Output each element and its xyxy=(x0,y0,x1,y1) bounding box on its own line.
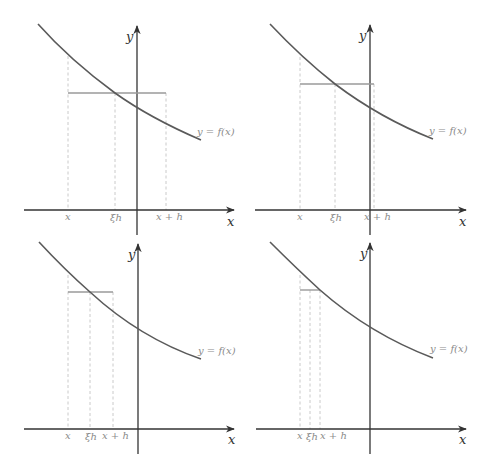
x-axis-label: x xyxy=(227,214,235,229)
tick-xi: ξh xyxy=(330,212,342,223)
tick-x-plus-h: x + h xyxy=(364,211,391,222)
panel-2: y x y = f(x) x ξh x + h xyxy=(255,24,467,235)
x-axis-label: x xyxy=(459,432,467,447)
y-axis-label: y xyxy=(358,28,367,43)
function-curve xyxy=(38,24,201,140)
tick-x: x xyxy=(297,430,303,441)
function-curve xyxy=(39,242,201,359)
panel-1: y x y = f(x) x ξh x + h xyxy=(24,24,235,235)
tick-xi: ξh xyxy=(85,431,97,442)
tick-x-plus-h: x + h xyxy=(320,430,347,441)
function-curve xyxy=(270,242,433,358)
tick-x-plus-h: x + h xyxy=(102,430,129,441)
tick-x: x xyxy=(65,211,71,222)
tick-xi: ξh xyxy=(306,431,318,442)
function-label: y = f(x) xyxy=(428,125,467,136)
y-axis-label: y xyxy=(127,247,136,262)
function-label: y = f(x) xyxy=(196,126,235,137)
mean-value-diagram: y x y = f(x) x ξh x + h y x y = f(x) x ξ… xyxy=(0,0,493,474)
tick-x-plus-h: x + h xyxy=(156,211,183,222)
tick-xi: ξh xyxy=(110,212,122,223)
x-axis-label: x xyxy=(459,214,467,229)
tick-x: x xyxy=(65,430,71,441)
x-axis-label: x xyxy=(228,432,236,447)
function-label: y = f(x) xyxy=(429,343,468,354)
function-curve xyxy=(270,24,433,139)
y-axis-label: y xyxy=(125,29,134,44)
y-axis-label: y xyxy=(359,246,368,261)
panel-4: y x y = f(x) x ξh x + h xyxy=(256,242,468,454)
panel-3: y x y = f(x) x ξh x + h xyxy=(24,242,236,454)
function-label: y = f(x) xyxy=(197,345,236,356)
tick-x: x xyxy=(297,211,303,222)
